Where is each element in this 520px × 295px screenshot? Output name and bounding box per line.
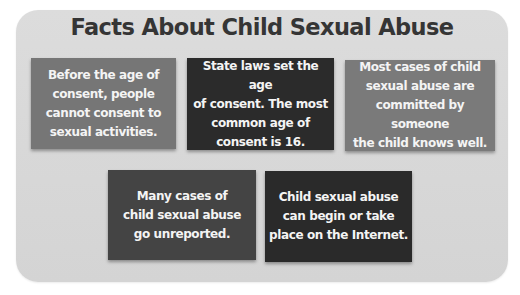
fact-text: State laws set the age of consent. The m… [191,57,330,152]
fact-box-internet: Child sexual abuse can begin or take pla… [265,171,412,262]
fact-box-known-perpetrator: Most cases of child sexual abuse are com… [345,60,495,151]
fact-text: Most cases of child sexual abuse are com… [349,58,491,153]
fact-box-age-of-consent: Before the age of consent, people cannot… [31,58,176,149]
fact-text: Child sexual abuse can begin or take pla… [269,188,408,245]
fact-text: Many cases of child sexual abuse go unre… [123,187,241,244]
fact-box-state-laws: State laws set the age of consent. The m… [187,58,334,150]
fact-box-unreported: Many cases of child sexual abuse go unre… [108,170,256,260]
infographic-title: Facts About Child Sexual Abuse [16,14,508,40]
fact-text: Before the age of consent, people cannot… [46,66,161,142]
